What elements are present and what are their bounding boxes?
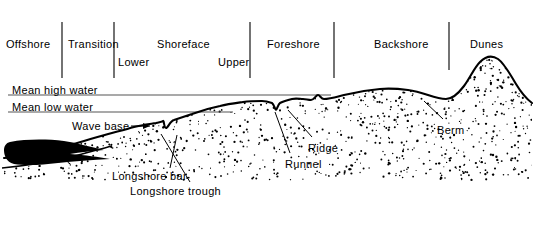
stipple-dot xyxy=(422,60,423,61)
stipple-dot xyxy=(452,75,454,77)
feature-label-longshore-bar: Longshore bar xyxy=(112,170,187,182)
stipple-dot xyxy=(279,64,281,66)
stipple-dot xyxy=(406,171,407,172)
stipple-dot xyxy=(155,91,157,93)
stipple-dot xyxy=(40,66,41,67)
stipple-dot xyxy=(515,168,517,170)
stipple-dot xyxy=(446,162,447,163)
stipple-dot xyxy=(521,171,522,172)
stipple-dot xyxy=(256,59,258,61)
stipple-dot xyxy=(177,113,178,114)
stipple-dot xyxy=(324,110,325,111)
stipple-dot xyxy=(445,111,447,113)
stipple-dot xyxy=(188,101,190,103)
stipple-dot xyxy=(44,66,45,67)
stipple-dot xyxy=(303,90,305,92)
stipple-dot xyxy=(484,173,486,175)
stipple-dot xyxy=(345,166,347,168)
stipple-dot xyxy=(143,96,145,98)
stipple-dot xyxy=(518,135,519,136)
stipple-dot xyxy=(507,76,509,78)
stipple-dot xyxy=(130,158,132,160)
stipple-dot xyxy=(154,149,156,151)
stipple-dot xyxy=(417,111,419,113)
stipple-dot xyxy=(376,130,377,131)
stipple-dot xyxy=(57,117,59,119)
stipple-dot xyxy=(247,108,249,110)
stipple-dot xyxy=(147,86,148,87)
stipple-dot xyxy=(430,169,431,170)
stipple-dot xyxy=(110,57,112,59)
stipple-dot xyxy=(188,170,190,172)
stipple-dot xyxy=(34,74,36,76)
stipple-dot xyxy=(147,133,149,135)
stipple-dot xyxy=(429,104,430,105)
stipple-dot xyxy=(320,58,322,60)
stipple-dot xyxy=(408,85,410,87)
stipple-dot xyxy=(140,103,141,104)
stipple-dot xyxy=(345,141,346,142)
stipple-dot xyxy=(479,141,480,142)
stipple-dot xyxy=(89,62,91,64)
stipple-dot xyxy=(118,166,119,167)
stipple-dot xyxy=(315,173,317,175)
stipple-dot xyxy=(495,156,497,158)
stipple-dot xyxy=(8,100,9,101)
stipple-dot xyxy=(406,85,408,87)
stipple-dot xyxy=(64,121,66,123)
stipple-dot xyxy=(476,166,478,168)
stipple-dot xyxy=(9,135,11,137)
stipple-dot xyxy=(81,60,82,61)
stipple-dot xyxy=(176,66,177,67)
stipple-dot xyxy=(492,75,494,77)
stipple-dot xyxy=(214,74,216,76)
mean-high-water-label: Mean high water xyxy=(12,84,98,96)
stipple-dot xyxy=(199,76,201,78)
stipple-dot xyxy=(518,154,520,156)
stipple-dot xyxy=(240,108,241,109)
stipple-dot xyxy=(146,92,147,93)
stipple-dot xyxy=(108,85,110,87)
stipple-dot xyxy=(87,160,89,162)
stipple-dot xyxy=(453,61,455,63)
stipple-dot xyxy=(345,77,347,79)
stipple-dot xyxy=(96,60,98,62)
stipple-dot xyxy=(518,173,520,175)
stipple-dot xyxy=(71,133,73,135)
stipple-dot xyxy=(281,87,283,89)
stipple-dot xyxy=(368,71,369,72)
stipple-dot xyxy=(15,167,17,169)
stipple-dot xyxy=(278,61,280,63)
stipple-dot xyxy=(388,116,390,118)
stipple-dot xyxy=(248,79,249,80)
stipple-dot xyxy=(433,90,435,92)
stipple-dot xyxy=(152,129,153,130)
stipple-dot xyxy=(223,160,225,162)
stipple-dot xyxy=(449,159,451,161)
stipple-dot xyxy=(153,86,155,88)
stipple-dot xyxy=(64,69,66,71)
stipple-dot xyxy=(213,88,215,90)
stipple-dot xyxy=(107,172,108,173)
stipple-dot xyxy=(491,137,493,139)
stipple-dot xyxy=(479,160,480,161)
stipple-dot xyxy=(113,97,115,99)
stipple-dot xyxy=(440,178,442,180)
stipple-dot xyxy=(68,168,69,169)
stipple-dot xyxy=(455,80,457,82)
stipple-dot xyxy=(459,169,461,171)
stipple-dot xyxy=(3,87,5,89)
stipple-dot xyxy=(43,173,45,175)
stipple-dot xyxy=(526,81,528,83)
stipple-dot xyxy=(144,130,146,132)
stipple-dot xyxy=(520,102,522,104)
stipple-dot xyxy=(380,159,382,161)
stipple-dot xyxy=(473,146,475,148)
stipple-dot xyxy=(0,150,1,152)
stipple-dot xyxy=(212,137,214,139)
stipple-dot xyxy=(248,166,250,168)
stipple-dot xyxy=(183,147,185,149)
stipple-dot xyxy=(512,157,514,159)
stipple-dot xyxy=(494,114,496,116)
stipple-dot xyxy=(325,59,327,61)
